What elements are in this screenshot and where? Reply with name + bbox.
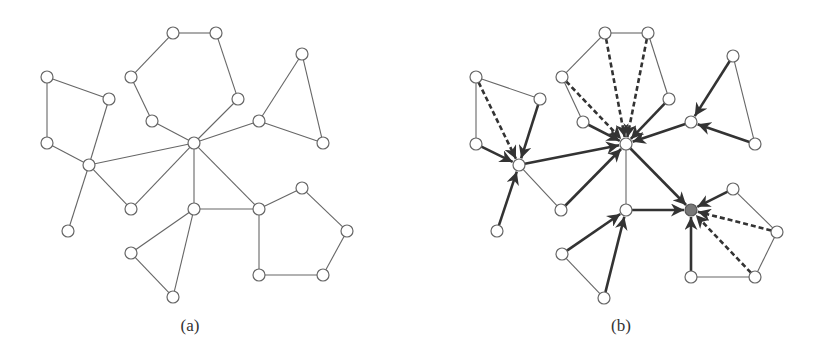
- graph-node: [125, 203, 137, 215]
- edge-undirected: [135, 257, 169, 292]
- graph-node: [296, 182, 308, 194]
- edge-undirected: [174, 215, 192, 291]
- graph-node: [210, 27, 222, 39]
- edge-undirected: [326, 236, 344, 269]
- edge-undirected: [198, 103, 234, 139]
- graph-node: [577, 116, 589, 128]
- graph-node: [41, 137, 53, 149]
- graph-node: [727, 50, 739, 62]
- edge-undirected: [523, 169, 557, 205]
- node-layer: [41, 27, 353, 303]
- edge-undirected: [758, 237, 775, 271]
- graph-node: [103, 93, 115, 105]
- graph-node: [167, 291, 179, 303]
- graph-node: [470, 71, 482, 83]
- graph-node: [771, 226, 783, 238]
- graph-node: [253, 115, 265, 127]
- graph-node: [642, 27, 654, 39]
- edge-thick-arrow: [588, 125, 619, 141]
- graph-node: [232, 93, 244, 105]
- graph-node: [620, 138, 632, 150]
- edge-undirected: [262, 59, 299, 116]
- graph-node: [727, 183, 739, 195]
- graph-node: [555, 204, 567, 216]
- graph-node: [125, 247, 137, 259]
- edge-undirected: [134, 82, 150, 115]
- edge-undirected: [93, 169, 127, 204]
- graph-node: [491, 225, 503, 237]
- graph-figure: [0, 0, 819, 353]
- graph-node: [663, 93, 675, 105]
- edge-undirected: [566, 258, 600, 293]
- graph-node: [685, 116, 697, 128]
- graph-node: [598, 292, 610, 304]
- graph-node: [749, 271, 761, 283]
- graph-node: [296, 48, 308, 60]
- edge-thick-arrow: [630, 148, 686, 205]
- graph-node: [534, 93, 546, 105]
- edge-undirected: [306, 192, 342, 227]
- panel-a-caption: (a): [181, 316, 200, 336]
- graph-node: [749, 138, 761, 150]
- edge-undirected: [95, 144, 188, 164]
- edge-undirected: [264, 191, 296, 207]
- edge-undirected: [53, 79, 104, 97]
- graph-node: [341, 225, 353, 237]
- edge-undirected: [200, 123, 254, 141]
- edge-undirected: [136, 212, 189, 249]
- edge-dashed-arrow: [566, 81, 621, 139]
- edge-dashed-arrow: [698, 212, 771, 231]
- panel-a-graph: [41, 27, 353, 303]
- edge-undirected: [303, 60, 321, 137]
- edge-undirected: [157, 124, 188, 140]
- graph-node: [620, 204, 632, 216]
- edge-undirected: [198, 147, 255, 204]
- edge-undirected: [135, 147, 190, 204]
- edge-undirected: [734, 62, 753, 138]
- edge-thick-arrow: [698, 124, 750, 142]
- graph-node: [146, 115, 158, 127]
- edge-dashed-arrow: [606, 39, 625, 137]
- graph-node: [167, 27, 179, 39]
- edge-thick-arrow: [567, 214, 620, 251]
- edge-thick-arrow: [521, 105, 538, 159]
- edge-thick-arrow: [633, 124, 686, 142]
- edge-undirected: [265, 123, 318, 141]
- graph-node: [188, 203, 200, 215]
- edge-thick-arrow: [695, 61, 730, 116]
- edge-thick-arrow: [605, 217, 624, 292]
- graph-node: [685, 271, 697, 283]
- edge-thick-arrow: [565, 149, 621, 206]
- edge-undirected: [91, 105, 108, 160]
- graph-node: [253, 203, 265, 215]
- edge-thick-arrow: [481, 147, 512, 162]
- edge-undirected: [218, 39, 236, 94]
- edge-dashed-arrow: [627, 39, 646, 137]
- edge-thick-arrow: [525, 145, 619, 163]
- graph-node: [317, 269, 329, 281]
- edge-undirected: [566, 37, 601, 72]
- graph-node: [41, 71, 53, 83]
- graph-node: [513, 159, 525, 171]
- graph-node: [556, 71, 568, 83]
- graph-node: [83, 159, 95, 171]
- panel-b-graph: [470, 27, 783, 304]
- edge-thick-arrow: [697, 192, 727, 207]
- graph-node: [62, 225, 74, 237]
- edge-undirected: [52, 146, 83, 162]
- graph-node: [470, 138, 482, 150]
- edge-undirected: [482, 79, 535, 97]
- edge-thick-arrow: [499, 172, 517, 226]
- edge-dashed-arrow: [696, 215, 751, 273]
- edge-undirected: [135, 37, 169, 72]
- graph-node: [599, 27, 611, 39]
- edge-undirected: [70, 171, 87, 226]
- graph-node: [188, 137, 200, 149]
- edge-undirected: [650, 39, 667, 94]
- graph-node: [125, 71, 137, 83]
- graph-node: [253, 269, 265, 281]
- edge-undirected: [737, 193, 772, 228]
- graph-node: [317, 137, 329, 149]
- graph-node: [556, 248, 568, 260]
- panel-b-caption: (b): [611, 316, 631, 336]
